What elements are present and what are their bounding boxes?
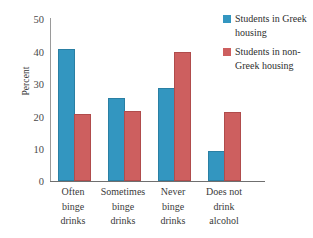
y-tick-label-40: 40 [22, 48, 44, 59]
bar-greek-often-binge-drinks[interactable] [58, 49, 75, 181]
y-tick-label-10: 10 [22, 145, 44, 156]
bar-nongreek-does-not-drink-alcohol[interactable] [224, 112, 241, 181]
legend-swatch-red-icon [223, 48, 231, 56]
y-tick-label-30: 30 [22, 80, 44, 91]
legend-label-line-1: Students in [235, 46, 280, 57]
x-axis-line [50, 181, 265, 182]
bar-nongreek-never-binge-drinks[interactable] [174, 52, 191, 181]
legend-item-greek-housing[interactable]: Students in Greek housing [222, 12, 313, 39]
bar-greek-does-not-drink-alcohol[interactable] [208, 151, 225, 181]
x-label-line-2: drink [193, 200, 255, 215]
bar-nongreek-sometimes-binge-drinks[interactable] [124, 111, 141, 181]
chart-legend: Students in Greek housing Students in no… [222, 12, 313, 78]
legend-swatch-blue-icon [223, 15, 231, 23]
legend-item-non-greek-housing[interactable]: Students in non-Greek housing [222, 45, 313, 72]
y-tick-label-20: 20 [22, 113, 44, 124]
x-axis-category-labels: Often binge drinks Sometimes binge drink… [51, 185, 265, 237]
bar-chart: Percent 50 40 30 20 10 0 Of [0, 0, 313, 238]
y-tick-label-50: 50 [22, 15, 44, 26]
bar-nongreek-often-binge-drinks[interactable] [74, 114, 91, 181]
cropped-title-remnant [42, 0, 272, 3]
y-axis-tick-labels: 50 40 30 20 10 0 [22, 0, 44, 238]
legend-label-greek-housing: Students in Greek housing [235, 12, 313, 39]
bar-greek-sometimes-binge-drinks[interactable] [108, 98, 125, 182]
bar-greek-never-binge-drinks[interactable] [158, 88, 175, 181]
legend-label-line-3: housing [262, 60, 294, 71]
x-label-line-3: alcohol [193, 214, 255, 229]
y-tick-label-0: 0 [22, 177, 44, 188]
legend-label-non-greek-housing: Students in non-Greek housing [235, 45, 313, 72]
x-label-does-not-drink-alcohol: Does not drink alcohol [193, 185, 255, 229]
x-label-line-1: Does not [193, 185, 255, 200]
legend-label-line-1: Students in [235, 13, 280, 24]
